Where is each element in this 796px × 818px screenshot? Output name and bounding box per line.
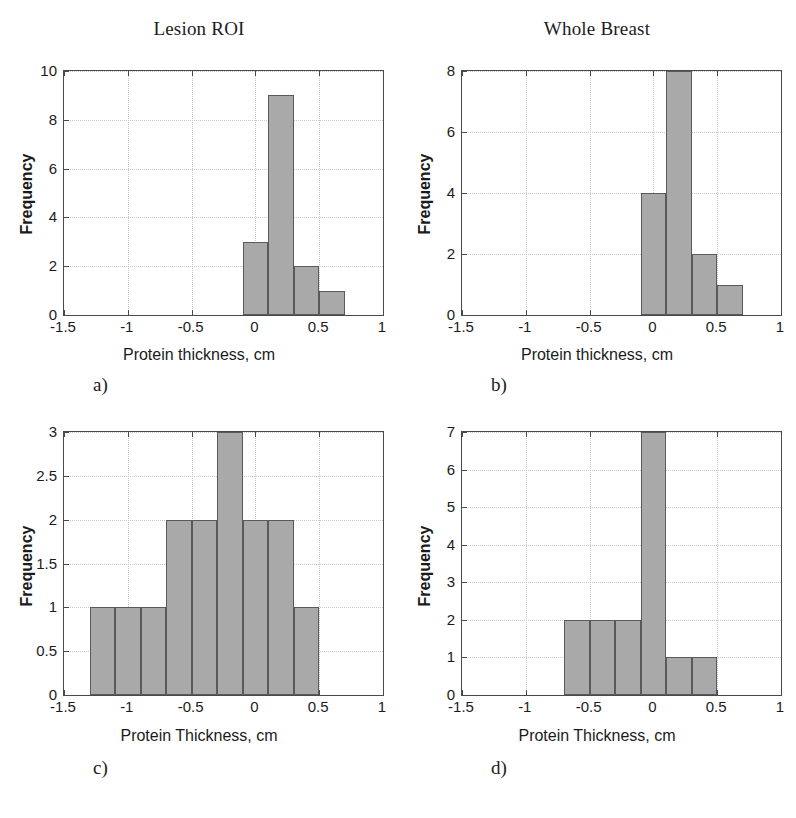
panel-letter-a: a) — [93, 374, 108, 396]
x-axis-tick-top — [319, 71, 320, 76]
x-axis-tick-label: 1 — [776, 698, 784, 715]
histogram-bar — [294, 607, 320, 695]
x-axis-title-a: Protein thickness, cm — [0, 346, 398, 364]
histogram-bar — [294, 266, 320, 315]
gridline-horizontal — [64, 120, 383, 121]
histogram-bar — [141, 607, 167, 695]
x-axis-tick — [526, 310, 527, 315]
y-axis-tick-label: 0.5 — [15, 642, 57, 659]
y-axis-tick-label: 3 — [413, 573, 455, 590]
histogram-bar — [641, 193, 667, 315]
y-axis-title-d: Frequency — [416, 511, 434, 621]
gridline-vertical — [526, 71, 527, 315]
panel-b: Frequency Protein thickness, cm b) 02468… — [398, 0, 796, 409]
histogram-bar — [666, 657, 692, 695]
y-axis-tick — [64, 266, 69, 267]
x-axis-tick-label: 1 — [776, 318, 784, 335]
x-axis-tick-label: -1.5 — [50, 698, 76, 715]
x-axis-tick-label: 0.5 — [308, 698, 329, 715]
x-axis-tick-label: -1 — [518, 318, 531, 335]
gridline-vertical — [319, 71, 320, 315]
y-axis-tick — [462, 470, 467, 471]
histogram-bar — [243, 242, 269, 315]
x-axis-tick-label: 0 — [250, 318, 258, 335]
y-axis-title-a: Frequency — [18, 139, 36, 249]
y-axis-tick-label: 6 — [15, 159, 57, 176]
gridline-horizontal — [462, 545, 781, 546]
x-axis-tick-top — [64, 432, 65, 437]
histogram-bar — [564, 620, 590, 695]
y-axis-tick — [64, 120, 69, 121]
y-axis-tick — [64, 169, 69, 170]
gridline-horizontal — [462, 432, 781, 433]
y-axis-tick-label: 8 — [413, 62, 455, 79]
x-axis-tick-top — [319, 432, 320, 437]
x-axis-tick-label: -1.5 — [448, 318, 474, 335]
x-axis-tick — [462, 690, 463, 695]
histogram-bar — [115, 607, 141, 695]
plot-area-c — [63, 431, 384, 696]
y-axis-tick-label: 8 — [15, 110, 57, 127]
y-axis-tick-label: 7 — [413, 423, 455, 440]
gridline-horizontal — [462, 71, 781, 72]
gridline-horizontal — [462, 193, 781, 194]
x-axis-tick-label: -1 — [518, 698, 531, 715]
panel-letter-b: b) — [491, 374, 507, 396]
x-axis-tick-top — [192, 71, 193, 76]
panel-d: Frequency Protein Thickness, cm d) 01234… — [398, 409, 796, 818]
histogram-bar — [692, 254, 718, 315]
gridline-horizontal — [462, 132, 781, 133]
y-axis-tick-label: 2.5 — [15, 466, 57, 483]
histogram-bar — [666, 71, 692, 315]
gridline-horizontal — [64, 266, 383, 267]
gridline-vertical — [526, 432, 527, 695]
histogram-bar — [615, 620, 641, 695]
plot-area-d — [461, 431, 782, 696]
panel-letter-d: d) — [491, 757, 507, 779]
x-axis-tick-top — [590, 432, 591, 437]
histogram-bar — [166, 520, 192, 695]
panel-a: Frequency Protein thickness, cm a) 02468… — [0, 0, 398, 409]
y-axis-tick-label: 3 — [15, 423, 57, 440]
x-axis-tick-label: 0 — [648, 318, 656, 335]
x-axis-tick-label: -0.5 — [178, 318, 204, 335]
y-axis-tick — [462, 582, 467, 583]
x-axis-tick-top — [255, 71, 256, 76]
x-axis-tick-top — [383, 71, 384, 76]
x-axis-tick-label: 0.5 — [706, 318, 727, 335]
x-axis-tick-top — [781, 71, 782, 76]
histogram-bar — [319, 291, 345, 315]
gridline-horizontal — [462, 582, 781, 583]
y-axis-tick — [64, 520, 69, 521]
x-axis-tick-top — [781, 432, 782, 437]
gridline-horizontal — [462, 254, 781, 255]
y-axis-tick — [64, 217, 69, 218]
x-axis-tick — [462, 310, 463, 315]
x-axis-tick-top — [462, 432, 463, 437]
x-axis-tick-label: 0.5 — [706, 698, 727, 715]
x-axis-tick-top — [462, 71, 463, 76]
gridline-horizontal — [462, 470, 781, 471]
y-axis-tick-label: 2 — [15, 510, 57, 527]
gridline-vertical — [319, 432, 320, 695]
y-axis-tick-label: 4 — [15, 208, 57, 225]
x-axis-tick-top — [717, 71, 718, 76]
histogram-figure: Lesion ROI Whole Breast Frequency Protei… — [0, 0, 796, 818]
x-axis-tick — [383, 310, 384, 315]
histogram-bar — [641, 432, 667, 695]
gridline-vertical — [192, 71, 193, 315]
y-axis-tick — [462, 507, 467, 508]
x-axis-tick-label: -1.5 — [448, 698, 474, 715]
y-axis-tick — [462, 254, 467, 255]
x-axis-title-b: Protein thickness, cm — [398, 346, 796, 364]
y-axis-tick — [64, 695, 69, 696]
x-axis-tick-top — [653, 71, 654, 76]
gridline-horizontal — [462, 507, 781, 508]
histogram-bar — [243, 520, 269, 695]
x-axis-tick — [717, 690, 718, 695]
x-axis-tick — [781, 310, 782, 315]
x-axis-tick — [526, 690, 527, 695]
x-axis-tick-top — [64, 71, 65, 76]
x-axis-title-d: Protein Thickness, cm — [398, 727, 796, 745]
panel-letter-c: c) — [93, 757, 108, 779]
